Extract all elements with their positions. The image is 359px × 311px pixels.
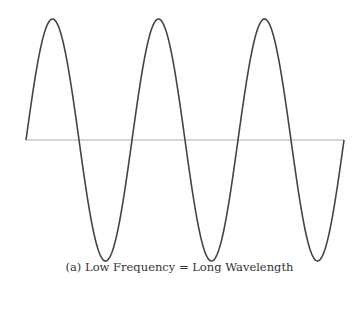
figure-caption: (a) Low Frequency = Long Wavelength — [0, 260, 359, 274]
